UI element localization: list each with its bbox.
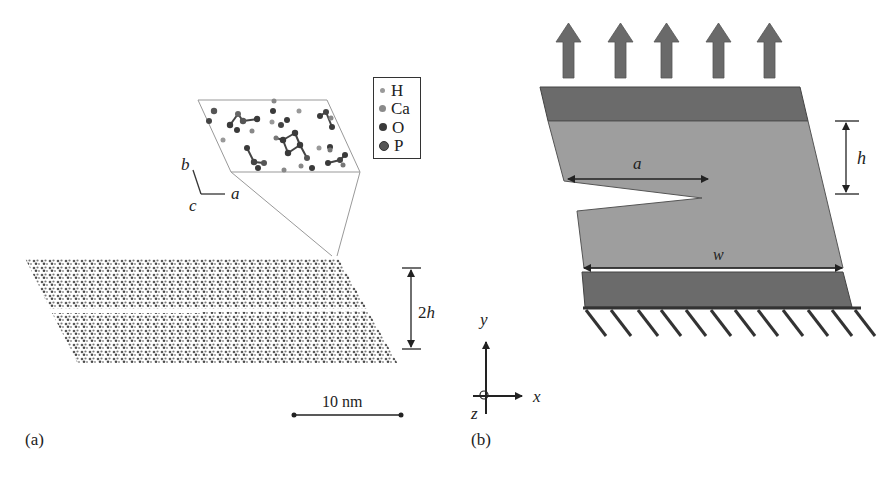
- dimension-2h-label: 2h: [418, 303, 435, 322]
- load-arrow-icon: [757, 23, 782, 78]
- legend-item-h: H: [379, 81, 420, 100]
- calcium-dot-icon: [379, 105, 386, 112]
- element-legend: H Ca O P: [373, 77, 421, 159]
- coordinate-axes: [473, 342, 522, 414]
- panel-a-label: (a): [25, 430, 44, 449]
- width-label: w: [713, 246, 724, 263]
- phosphorus-dot-icon: [379, 141, 389, 151]
- legend-item-o: O: [379, 118, 420, 137]
- coord-label-z: z: [470, 404, 478, 423]
- atomistic-slab-lower: [52, 311, 398, 364]
- legend-label: P: [394, 137, 403, 154]
- legend-item-ca: Ca: [379, 100, 420, 119]
- axis-label-c: c: [189, 196, 197, 215]
- specimen-body: [548, 121, 843, 268]
- crack-gap-fill: [52, 309, 202, 313]
- coord-label-y: y: [478, 310, 488, 329]
- top-grip: [540, 87, 808, 121]
- hydrogen-dot-icon: [380, 88, 385, 93]
- zoom-line-left: [231, 172, 332, 256]
- load-arrow-icon: [608, 23, 633, 78]
- unit-cell-atom-dots: [206, 99, 348, 173]
- figure-canvas: b c a 2h 10 nm (a): [0, 0, 894, 478]
- fixed-support-hatch: [586, 310, 875, 336]
- oxygen-dot-icon: [379, 123, 387, 131]
- load-arrow-icon: [706, 23, 731, 78]
- panel-b-label: (b): [471, 430, 491, 449]
- atomistic-slab-upper: [25, 258, 367, 309]
- crack-length-label: a: [633, 154, 642, 173]
- scale-bar-label: 10 nm: [322, 393, 363, 410]
- dimension-h: [835, 121, 859, 194]
- load-arrow-icon: [556, 23, 581, 78]
- load-arrow-icon: [654, 23, 679, 78]
- axis-label-a: a: [231, 184, 240, 203]
- panel-b: a h w y x z (b): [470, 23, 875, 449]
- legend-item-p: P: [379, 137, 420, 156]
- legend-label: H: [391, 82, 403, 99]
- dimension-h-label: h: [857, 148, 866, 168]
- legend-label: O: [392, 119, 404, 136]
- coord-label-x: x: [532, 387, 541, 406]
- zoom-line-right: [337, 172, 360, 256]
- bottom-grip: [582, 272, 852, 307]
- legend-label: Ca: [391, 100, 410, 117]
- crystal-axes: [193, 170, 225, 194]
- axis-label-b: b: [181, 155, 190, 174]
- load-arrows: [556, 23, 782, 78]
